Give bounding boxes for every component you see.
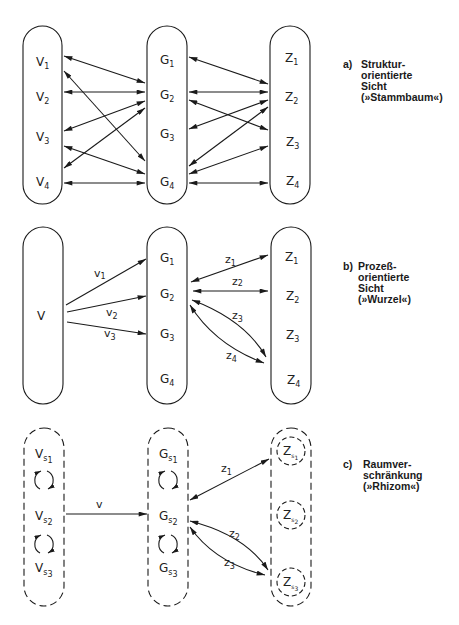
edge-g1-z2 (189, 57, 268, 84)
edge-label-z1: z1 (225, 253, 236, 268)
node-v1: V1 (36, 55, 49, 71)
node-z2: Z2 (285, 90, 298, 106)
edge-label-v: v (96, 498, 103, 511)
caption-letter: a) (343, 59, 352, 70)
node-zs2: Zs2 (283, 508, 298, 525)
panel-c-labels: Vs1 Vs2 Vs3 Gs1 Gs2 Gs3 Zs1 Zs2 Zs3 v z1… (35, 444, 298, 592)
caption-text: Struktur- orientierte Sicht (»Stammbaum«… (361, 59, 443, 103)
node-gs1: Gs1 (159, 447, 178, 465)
caption-line: (»Wurzel«) (358, 294, 411, 305)
node-z4: Z4 (287, 373, 300, 389)
edge-g4-z2 (189, 107, 268, 166)
node-g2: G2 (160, 287, 174, 303)
edge-gs-zs1 (190, 459, 269, 500)
node-z3: Z3 (286, 328, 299, 344)
node-g4: G4 (160, 372, 174, 388)
caption-text: Prozeß- orientierte Sicht (»Wurzel«) (358, 261, 411, 305)
node-v: V (37, 309, 46, 323)
node-v2: V2 (36, 90, 49, 106)
cycle-icon (35, 471, 53, 489)
edge-g4-z3 (189, 146, 268, 174)
edge-label-z3: z3 (224, 556, 235, 571)
node-gs2: Gs2 (159, 509, 178, 527)
node-z4: Z4 (286, 174, 299, 190)
node-g1: G1 (160, 53, 174, 69)
caption-letter: c) (343, 459, 352, 470)
node-gs3: Gs3 (159, 561, 178, 579)
node-v3: V3 (36, 130, 49, 146)
caption-line: (»Stammbaum«) (361, 92, 443, 103)
edge-label-v1: v1 (94, 267, 106, 281)
node-z1: Z1 (285, 51, 298, 67)
node-z2: Z2 (286, 289, 299, 305)
edge-v1-g2 (64, 56, 145, 83)
edge-label-z4: z4 (226, 349, 237, 364)
caption-text: Raumver- schränkung (»Rhizom«) (363, 459, 423, 492)
node-g3: G3 (160, 127, 174, 143)
node-v4: V4 (36, 175, 49, 191)
node-zs3: Zs3 (283, 575, 298, 592)
edge-label-v2: v2 (106, 306, 118, 321)
cycle-icon (159, 535, 177, 553)
node-z1: Z1 (285, 250, 298, 266)
cycle-icon (159, 471, 177, 489)
node-vs2: Vs2 (35, 509, 52, 527)
node-z3: Z3 (286, 135, 299, 151)
caption-line: (»Rhizom«) (363, 481, 423, 492)
edge-v3-g2 (64, 101, 145, 131)
node-g1: G1 (160, 251, 174, 267)
node-vs3: Vs3 (35, 561, 52, 579)
panel-a-labels: V1 V2 V3 V4 G1 G2 G3 G4 Z1 Z2 Z3 Z4 (36, 51, 299, 191)
node-zs1: Zs1 (283, 444, 298, 461)
edge-label-z1: z1 (221, 462, 232, 477)
edge-label-z3: z3 (232, 309, 243, 324)
edge-label-z2: z2 (229, 527, 240, 542)
node-g3: G3 (160, 327, 174, 343)
edge-v4-g2 (64, 108, 145, 168)
node-g2: G2 (160, 88, 174, 104)
panel-b-labels: V G1 G2 G3 G4 Z1 Z2 Z3 Z4 v1 v2 v3 z1 z2… (37, 250, 300, 389)
edge-v3-g4 (64, 146, 145, 174)
node-vs1: Vs1 (35, 447, 52, 465)
caption-letter: b) (343, 261, 353, 272)
cycle-icon (35, 535, 53, 553)
edge-label-z2: z2 (232, 275, 243, 288)
node-g4: G4 (160, 175, 174, 191)
